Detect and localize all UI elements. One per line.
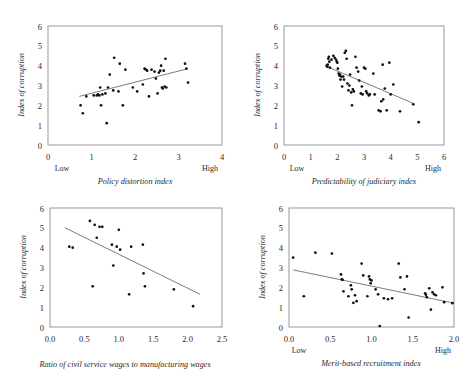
- data-point: [192, 305, 195, 308]
- data-point: [101, 93, 104, 96]
- data-point: [383, 87, 386, 90]
- panel-3-plot-area: [65, 220, 200, 308]
- data-point: [377, 293, 380, 296]
- ytick-0: 0: [279, 323, 283, 333]
- xtick-2: 1.0: [113, 334, 124, 344]
- ytick-5: 5: [279, 223, 283, 233]
- ytick-4: 4: [279, 243, 284, 253]
- data-point: [346, 82, 349, 85]
- data-point: [360, 262, 363, 265]
- data-point: [98, 225, 101, 228]
- xtick-5: 5: [415, 152, 419, 162]
- panel-1-low-label: Low: [55, 164, 70, 173]
- data-point: [352, 301, 355, 304]
- panel-4-svg: 6 5 4 3 2 1 0 Index of corruption 0.0 0.…: [237, 196, 474, 380]
- ytick-3: 3: [40, 263, 44, 273]
- data-point: [358, 79, 361, 82]
- data-point: [108, 73, 111, 76]
- panel-3-xtick-labels: 0.0 0.5 1.0 1.5 2.0 2.5: [45, 334, 228, 344]
- data-point: [160, 64, 163, 67]
- panel-predictability-judiciary: 6 5 4 3 2 1 0 Index of corruption 0 1 2 …: [237, 14, 474, 190]
- ytick-3: 3: [38, 81, 42, 91]
- data-point: [124, 68, 127, 71]
- data-point: [128, 293, 131, 296]
- xtick-2: 2: [133, 152, 137, 162]
- panel-2-ytick-labels: 6 5 4 3 2 1 0: [274, 22, 279, 151]
- data-point: [104, 92, 107, 95]
- data-point: [351, 104, 354, 107]
- data-point: [330, 58, 333, 61]
- data-point: [341, 278, 344, 281]
- data-point: [115, 245, 118, 248]
- data-point: [369, 282, 372, 285]
- data-point: [184, 62, 187, 65]
- data-point: [428, 287, 431, 290]
- xtick-0: 0: [282, 152, 286, 162]
- data-point: [105, 122, 108, 125]
- panel-1-plot-area: [79, 56, 189, 124]
- data-point: [364, 67, 367, 70]
- data-point: [329, 66, 332, 69]
- data-point: [345, 49, 348, 52]
- xtick-0: 0.0: [45, 334, 56, 344]
- panel-2-high-label: High: [425, 164, 441, 173]
- data-point: [314, 251, 317, 254]
- data-point: [141, 83, 144, 86]
- data-point: [98, 94, 101, 97]
- ytick-2: 2: [40, 283, 44, 293]
- panel-policy-distortion: 6 5 4 3 2 1 0 Index of corruption 0 1 2 …: [0, 14, 237, 190]
- data-point: [397, 262, 400, 265]
- data-point: [372, 72, 375, 75]
- ytick-5: 5: [38, 41, 42, 51]
- panel-4-high-label: High: [435, 346, 451, 355]
- panel-3-y-axis-label: Index of corruption: [19, 235, 28, 300]
- data-point: [370, 279, 373, 282]
- data-point: [378, 325, 381, 328]
- data-point: [71, 246, 74, 249]
- panel-4-xtick-labels: 0.0 0.5 1.0 1.5 2.0: [284, 334, 460, 344]
- data-point: [92, 94, 95, 97]
- data-point: [155, 77, 158, 80]
- data-point: [337, 67, 340, 70]
- xtick-6: 6: [442, 152, 446, 162]
- panel-4-y-axis-label: Index of corruption: [258, 235, 267, 300]
- data-point: [85, 95, 88, 98]
- panel-civil-service-wages: 6 5 4 3 2 1 0 Index of corruption 0.0 0.…: [0, 196, 237, 380]
- ytick-1: 1: [279, 303, 283, 313]
- data-point: [388, 61, 391, 64]
- data-point: [354, 55, 357, 58]
- data-point: [353, 90, 356, 93]
- ytick-5: 5: [40, 223, 44, 233]
- panel-2-svg: 6 5 4 3 2 1 0 Index of corruption 0 1 2 …: [237, 14, 474, 190]
- data-point: [347, 295, 350, 298]
- panel-4-low-label: Low: [292, 346, 307, 355]
- data-point: [79, 104, 82, 107]
- data-point: [380, 100, 383, 103]
- panel-3-plot-frame: [50, 208, 222, 327]
- xtick-3: 3: [176, 152, 180, 162]
- data-point: [81, 112, 84, 115]
- panel-4-x-axis-label: Merit-based recruitment index: [320, 359, 421, 368]
- data-point: [407, 316, 410, 319]
- ytick-0: 0: [40, 323, 44, 333]
- data-point: [89, 220, 92, 223]
- data-point: [153, 70, 156, 73]
- xtick-0: 0.0: [284, 334, 295, 344]
- xtick-1: 1: [89, 152, 93, 162]
- data-point: [328, 60, 331, 63]
- data-point: [144, 285, 147, 288]
- data-point: [368, 275, 371, 278]
- ytick-2: 2: [38, 101, 42, 111]
- data-point: [93, 224, 96, 227]
- ytick-6: 6: [38, 22, 42, 32]
- data-point: [435, 294, 438, 297]
- data-point: [347, 89, 350, 92]
- xtick-4: 2.0: [449, 334, 460, 344]
- data-point: [68, 245, 71, 248]
- data-point: [130, 245, 133, 248]
- data-point: [342, 290, 345, 293]
- data-point: [150, 68, 153, 71]
- data-point: [336, 61, 339, 64]
- panel-2-plot-frame: [284, 26, 444, 145]
- data-point: [350, 284, 353, 287]
